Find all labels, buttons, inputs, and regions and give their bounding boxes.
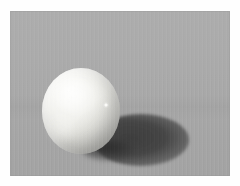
photo-plate <box>10 11 230 176</box>
sphere-terminator <box>42 68 120 154</box>
white-sphere <box>42 68 120 154</box>
sphere-diffuse-highlight <box>56 78 96 116</box>
specular-highlight-dot <box>104 103 108 107</box>
photo-frame: A matte white sphere resting on a flat g… <box>0 0 240 186</box>
image-caption: A matte white sphere resting on a flat g… <box>0 0 1 1</box>
